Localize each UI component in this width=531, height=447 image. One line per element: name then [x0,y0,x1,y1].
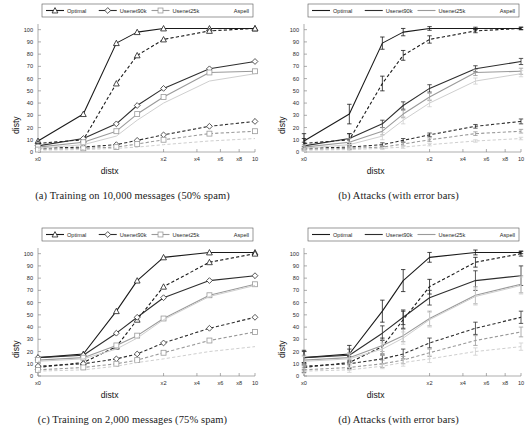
y-tick-label: 60 [27,76,33,82]
y-tick-label: 60 [293,300,299,306]
y-tick-label: 0 [296,373,299,379]
legend-label-usenet25k: Usenet25k [173,8,200,14]
data-marker-diamond [207,123,213,129]
x-tick-label: x6 [483,156,489,162]
series-line [304,276,521,358]
series-line [38,252,255,357]
series-line [304,121,521,148]
data-marker-square [158,232,163,237]
data-marker-square [253,129,258,134]
legend: OptimalUsenet90kUsenet25kAspell [42,228,253,241]
y-axis-title: disty [277,340,287,358]
y-tick-label: 20 [27,349,33,355]
x-tick-label: x4 [194,156,200,162]
legend-label-optimal: Optimal [333,8,352,14]
legend-label-usenet90k: Usenet90k [386,8,413,14]
x-tick-label: x8 [236,156,242,162]
y-tick-label: 60 [27,300,33,306]
series-group [35,250,258,373]
y-tick-label: 20 [293,349,299,355]
y-tick-label: 50 [293,312,299,318]
x-tick-label: x0 [301,380,307,386]
y-tick-label: 20 [27,125,33,131]
data-marker-square [36,358,41,363]
y-tick-label: 70 [27,63,33,69]
y-tick-label: 70 [27,287,33,293]
legend: OptimalUsenet90kUsenet25kAspell [42,4,253,17]
y-tick-label: 0 [30,149,33,155]
series-line [38,121,255,148]
chart-c: 0102030405060708090100x0x2x4x6x810distxd… [0,224,265,416]
error-bar [380,76,384,91]
legend-label-optimal: Optimal [67,8,86,14]
data-marker-triangle [80,111,86,116]
y-tick-label: 10 [27,137,33,143]
y-tick-label: 90 [293,39,299,45]
legend-label-usenet25k: Usenet25k [173,232,200,238]
y-tick-label: 10 [293,361,299,367]
error-bar [401,102,405,109]
legend-label-usenet25k: Usenet25k [439,8,466,14]
x-tick-label: 10 [252,380,258,386]
y-tick-label: 70 [293,287,299,293]
y-tick-label: 20 [293,125,299,131]
y-tick-label: 40 [27,324,33,330]
y-tick-label: 80 [293,51,299,57]
x-tick-label: x6 [217,156,223,162]
data-marker-square [114,361,119,366]
data-marker-diamond [134,351,140,357]
x-tick-label: x8 [502,380,508,386]
series-line [304,74,521,149]
y-tick-label: 60 [293,76,299,82]
data-marker-diamond [252,273,258,279]
data-marker-square [161,350,166,355]
x-axis-title: distx [101,166,119,176]
data-marker-diamond [207,278,213,284]
panel-d-plot: 0102030405060708090100x0x2x4x6x810distxd… [266,224,531,416]
x-tick-label: x0 [35,380,41,386]
y-axis-title: disty [11,116,21,134]
legend-label-usenet25k: Usenet25k [439,232,466,238]
error-bar [427,36,431,43]
data-marker-diamond [161,85,167,91]
y-tick-label: 30 [293,336,299,342]
data-marker-diamond [252,314,258,320]
data-marker-square [114,129,119,134]
y-axis-title: disty [11,340,21,358]
legend-label-optimal: Optimal [67,232,86,238]
y-tick-label: 90 [27,263,33,269]
y-axis-ticks: 0102030405060708090100 [24,27,41,155]
x-tick-label: x0 [35,156,41,162]
y-tick-label: 10 [293,137,299,143]
series-group [302,250,523,374]
y-tick-label: 90 [27,39,33,45]
panel-d: 0102030405060708090100x0x2x4x6x810distxd… [266,224,531,447]
panel-c-plot: 0102030405060708090100x0x2x4x6x810distxd… [0,224,265,416]
y-tick-label: 10 [27,361,33,367]
y-tick-label: 0 [30,373,33,379]
y-tick-label: 100 [24,27,33,33]
legend-label-aspell: Aspell [500,8,515,14]
y-tick-label: 70 [293,63,299,69]
error-bar [519,137,523,139]
panel-a-plot: 0102030405060708090100x0x2x4x6x810distxd… [0,0,265,192]
y-tick-label: 40 [27,100,33,106]
error-bar [427,85,431,92]
legend-label-aspell: Aspell [234,8,249,14]
series-line [304,71,521,147]
legend-label-usenet90k: Usenet90k [386,232,413,238]
x-axis-ticks: x0x2x4x6x810 [301,373,524,386]
x-tick-label: x2 [161,380,167,386]
data-marker-square [135,112,140,117]
legend-label-optimal: Optimal [333,232,352,238]
series-line [38,74,255,149]
data-marker-square [135,358,140,363]
x-tick-label: x0 [301,156,307,162]
series-group [35,26,258,152]
series-line [38,276,255,358]
series-line [38,284,255,360]
panel-b-caption: (b) Attacks (with error bars) [266,190,531,201]
error-bar [380,300,384,322]
data-marker-square [253,69,258,74]
x-axis-title: distx [101,390,119,400]
